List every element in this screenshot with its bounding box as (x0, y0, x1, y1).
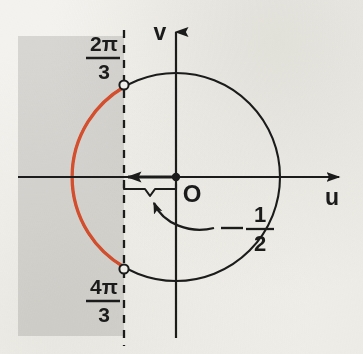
callout-curved-arrow (154, 203, 214, 230)
lower-angle-denominator: 3 (98, 303, 110, 326)
distance-brace (124, 184, 176, 196)
distance-denominator: 2 (254, 231, 266, 256)
figure-canvas: 2π 3 4π 3 1 2 v u O (0, 0, 363, 354)
label-distance-half: 1 2 (246, 202, 274, 256)
origin-label: O (183, 180, 202, 207)
u-axis-label: u (325, 184, 339, 210)
unit-circle-diagram: 2π 3 4π 3 1 2 v u O (0, 0, 363, 354)
v-axis-label: v (154, 19, 167, 45)
lower-angle-numerator: 4π (90, 275, 118, 298)
upper-angle-denominator: 3 (98, 60, 110, 83)
arc-endpoint-upper-marker (119, 80, 128, 89)
arc-endpoint-lower-marker (119, 264, 128, 273)
distance-numerator: 1 (254, 202, 266, 227)
upper-angle-numerator: 2π (90, 32, 118, 55)
